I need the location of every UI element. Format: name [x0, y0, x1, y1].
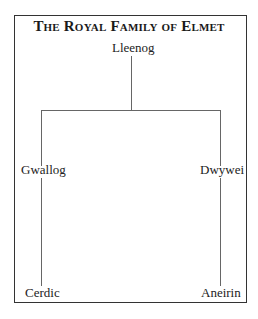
person-cerdic: Cerdic — [25, 286, 60, 300]
person-lleenog: Lleenog — [112, 41, 155, 55]
diagram-title: The Royal Family of Elmet — [0, 18, 258, 35]
connector-right-upper — [220, 110, 221, 166]
person-dwywei: Dwywei — [200, 163, 244, 177]
person-gwallog: Gwallog — [21, 163, 66, 177]
connector-right-lower — [220, 178, 221, 286]
connector-left-lower — [41, 178, 42, 286]
connector-root-vertical — [131, 56, 132, 111]
person-aneirin: Aneirin — [201, 286, 241, 300]
connector-horizontal — [41, 110, 221, 111]
connector-left-upper — [41, 110, 42, 166]
